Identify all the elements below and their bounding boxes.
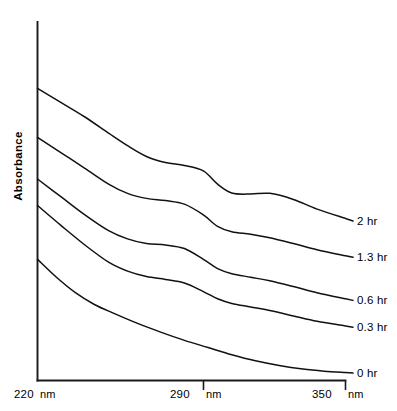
- x-tick-label-290: 290: [170, 388, 190, 400]
- x-tick-label-220: 220: [14, 388, 34, 400]
- x-tick-unit-350: nm: [348, 388, 364, 400]
- x-tick-unit-290: nm: [206, 388, 222, 400]
- x-tick-unit-220: nm: [40, 388, 56, 400]
- chart-background: [0, 0, 397, 411]
- series-label-2hr: 2 hr: [357, 215, 378, 227]
- x-tick-label-350: 350: [312, 388, 332, 400]
- y-axis-title: Absorbance: [12, 131, 24, 200]
- series-label-0-6hr: 0.6 hr: [357, 294, 388, 306]
- series-label-1-3hr: 1.3 hr: [357, 251, 388, 263]
- series-label-0hr: 0 hr: [357, 367, 378, 379]
- absorbance-spectra-chart: 2 hr 1.3 hr 0.6 hr 0.3 hr 0 hr 220 nm 29…: [0, 0, 397, 411]
- series-label-0-3hr: 0.3 hr: [357, 321, 388, 333]
